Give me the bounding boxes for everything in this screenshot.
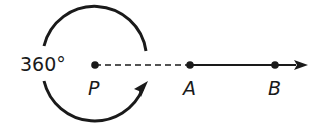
label-B: B [268,77,281,99]
angle-label: 360° [20,53,66,75]
label-P: P [88,77,100,99]
point-A [186,61,194,69]
rotation-diagram: 360° P A B [0,0,327,129]
label-A: A [181,77,196,99]
rotation-arc-upper [44,6,146,51]
point-B [271,61,279,69]
ray-arrowhead-icon [294,60,308,70]
point-P [91,61,99,69]
arc-arrowhead-icon [134,81,148,97]
